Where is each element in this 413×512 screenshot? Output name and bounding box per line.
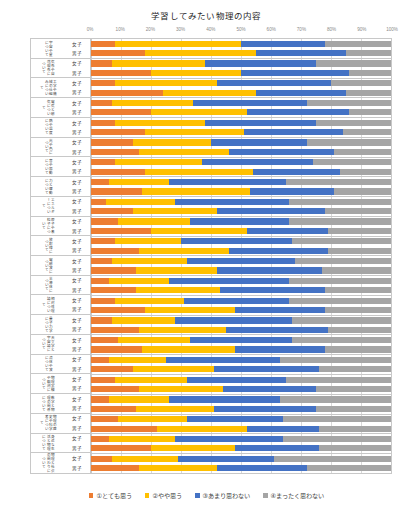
bar-segment-4 bbox=[325, 307, 391, 313]
bar-segment-3 bbox=[229, 248, 328, 254]
sex-label-female: 女子 bbox=[66, 197, 88, 206]
category-group: 数学と物理の関係について女子男子 bbox=[31, 394, 90, 414]
category-label-text: 工学や機械の仕組みについて bbox=[40, 78, 56, 97]
bar-row bbox=[91, 207, 391, 216]
category-label-text: 力と運動について bbox=[44, 177, 52, 196]
x-axis-tick-1: 10% bbox=[116, 27, 125, 32]
stacked-bar bbox=[91, 465, 391, 471]
bar-row bbox=[91, 325, 391, 334]
bar-segment-2 bbox=[118, 416, 187, 422]
legend-item-2[interactable]: ②やや思う bbox=[145, 491, 182, 500]
bar-group bbox=[91, 59, 391, 79]
sex-label-female: 女子 bbox=[66, 39, 88, 48]
sex-label-male: 男子 bbox=[66, 384, 88, 393]
bar-row bbox=[91, 237, 391, 246]
category-label: 物理の歴史や科学者について bbox=[32, 414, 64, 433]
stacked-bar bbox=[91, 90, 391, 96]
bar-group bbox=[91, 217, 391, 237]
category-label-text: 量子力学について bbox=[44, 315, 52, 334]
legend-item-3[interactable]: ③あまり思わない bbox=[195, 491, 250, 500]
bar-segment-2 bbox=[145, 129, 244, 135]
bar-segment-2 bbox=[151, 445, 235, 451]
x-axis-tick-3: 30% bbox=[176, 27, 185, 32]
bar-group bbox=[91, 276, 391, 296]
bar-segment-3 bbox=[205, 120, 316, 126]
category-label-column: 宇宙や星について女子男子気象や自然現象について女子男子工学や機械の仕組みについて… bbox=[31, 39, 91, 473]
bar-segment-3 bbox=[241, 70, 349, 76]
bar-segment-1 bbox=[91, 90, 163, 96]
bar-row bbox=[91, 127, 391, 136]
category-label: 宇宙や星について bbox=[32, 39, 64, 58]
stacked-bar bbox=[91, 287, 391, 293]
bar-segment-2 bbox=[115, 377, 187, 383]
bar-segment-4 bbox=[286, 377, 391, 383]
bar-segment-1 bbox=[91, 267, 136, 273]
sex-label-female: 女子 bbox=[66, 256, 88, 265]
bar-segment-3 bbox=[247, 109, 349, 115]
bar-segment-1 bbox=[91, 228, 151, 234]
bar-segment-4 bbox=[328, 248, 391, 254]
bar-groups bbox=[91, 39, 391, 473]
stacked-bar bbox=[91, 386, 391, 392]
bar-row bbox=[91, 177, 391, 186]
x-axis-tick-0: 0% bbox=[87, 27, 94, 32]
category-label: 原子や素粒子について bbox=[32, 217, 64, 236]
bar-segment-2 bbox=[112, 100, 193, 106]
bar-segment-2 bbox=[139, 386, 223, 392]
bar-segment-4 bbox=[292, 337, 391, 343]
stacked-bar bbox=[91, 396, 391, 402]
bar-segment-1 bbox=[91, 357, 109, 363]
bar-group bbox=[91, 197, 391, 217]
bar-segment-3 bbox=[175, 199, 289, 205]
bar-segment-2 bbox=[109, 436, 175, 442]
sex-label-male: 男子 bbox=[66, 186, 88, 195]
sex-label-column: 女子男子 bbox=[66, 434, 88, 453]
sex-label-column: 女子男子 bbox=[66, 355, 88, 374]
bar-segment-3 bbox=[190, 337, 292, 343]
bar-segment-2 bbox=[133, 366, 214, 372]
bar-segment-4 bbox=[280, 396, 391, 402]
bar-segment-3 bbox=[235, 307, 325, 313]
sex-label-female: 女子 bbox=[66, 78, 88, 87]
category-label: 気象や自然現象について bbox=[32, 59, 64, 78]
stacked-bar bbox=[91, 456, 391, 462]
bar-segment-2 bbox=[151, 70, 241, 76]
bar-group bbox=[91, 375, 391, 395]
bar-segment-1 bbox=[91, 159, 115, 165]
bar-segment-3 bbox=[235, 445, 319, 451]
sex-label-column: 女子男子 bbox=[66, 98, 88, 117]
bar-segment-2 bbox=[115, 120, 205, 126]
sex-label-male: 男子 bbox=[66, 364, 88, 373]
legend-item-4[interactable]: ④まったく思わない bbox=[263, 491, 324, 500]
bar-segment-1 bbox=[91, 238, 115, 244]
legend-item-1[interactable]: ①とても思う bbox=[89, 491, 132, 500]
bar-segment-3 bbox=[169, 396, 280, 402]
bar-segment-2 bbox=[133, 139, 211, 145]
bar-segment-3 bbox=[253, 169, 340, 175]
bar-segment-1 bbox=[91, 456, 112, 462]
bar-group bbox=[91, 98, 391, 118]
category-label-text: 物理の歴史や科学者について bbox=[40, 414, 56, 433]
bar-segment-3 bbox=[229, 149, 334, 155]
bar-segment-3 bbox=[217, 465, 307, 471]
bar-segment-2 bbox=[139, 248, 229, 254]
bar-group bbox=[91, 415, 391, 435]
category-label-text: 電気と磁気について bbox=[42, 98, 54, 117]
bar-row bbox=[91, 375, 391, 384]
bar-segment-1 bbox=[91, 208, 133, 214]
bar-segment-2 bbox=[136, 287, 220, 293]
bar-segment-2 bbox=[106, 199, 175, 205]
bar-segment-1 bbox=[91, 70, 151, 76]
sex-label-column: 女子男子 bbox=[66, 374, 88, 393]
sex-label-column: 女子男子 bbox=[66, 217, 88, 236]
stacked-bar bbox=[91, 436, 391, 442]
bar-segment-3 bbox=[241, 41, 325, 47]
stacked-bar bbox=[91, 159, 391, 165]
bar-segment-4 bbox=[319, 366, 391, 372]
bar-row bbox=[91, 296, 391, 305]
bar-group bbox=[91, 158, 391, 178]
category-label-text: 宇宙や星について bbox=[44, 39, 52, 58]
sex-label-column: 女子男子 bbox=[66, 39, 88, 58]
sex-label-male: 男子 bbox=[66, 88, 88, 97]
bar-segment-3 bbox=[193, 100, 307, 106]
